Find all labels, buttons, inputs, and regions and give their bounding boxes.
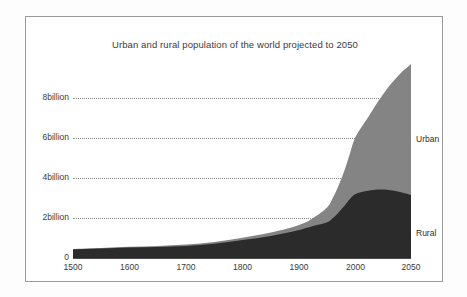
x-axis-tick-label: 1500 [64, 262, 83, 272]
x-axis-tick-label: 1600 [120, 262, 139, 272]
y-axis-tick-label: 8billion [43, 92, 69, 102]
y-axis-tick-label: 0 [64, 252, 69, 262]
x-axis-tick-label: 2000 [346, 262, 365, 272]
plot-area [73, 58, 411, 258]
series-label-urban: Urban [416, 134, 439, 144]
chart-title: Urban and rural population of the world … [26, 39, 444, 50]
x-axis-tick-label: 2050 [402, 262, 421, 272]
y-axis-tick-label: 2billion [43, 212, 69, 222]
x-axis-tick-label: 1900 [290, 262, 309, 272]
x-axis-tick-label: 1700 [177, 262, 196, 272]
stacked-area-chart [73, 58, 411, 258]
x-axis-line [73, 258, 411, 259]
y-axis-tick-label: 4billion [43, 172, 69, 182]
chart-frame: Urban and rural population of the world … [25, 16, 443, 282]
series-label-rural: Rural [416, 228, 436, 238]
figure-canvas: Urban and rural population of the world … [0, 0, 467, 297]
y-axis-tick-label: 6billion [43, 132, 69, 142]
x-axis-tick-label: 1800 [233, 262, 252, 272]
